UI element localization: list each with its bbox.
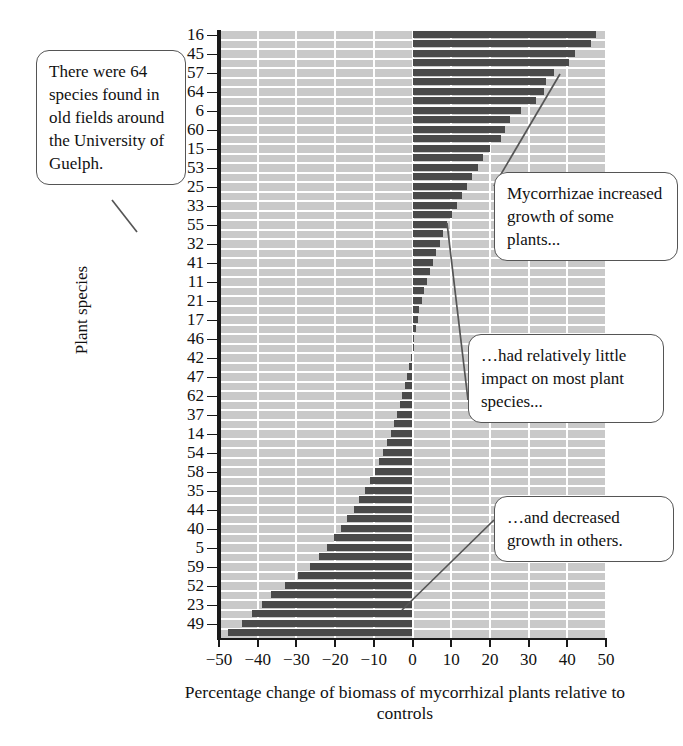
y-axis-tick-label: 23	[187, 596, 204, 613]
y-axis-tick-label: 32	[187, 235, 204, 252]
bar	[262, 601, 413, 608]
bar	[298, 572, 412, 579]
y-axis-tick	[207, 244, 217, 245]
callout-little-impact: …had relatively little impact on most pl…	[468, 334, 664, 423]
y-axis-tick	[207, 263, 217, 264]
bar	[327, 544, 413, 551]
y-axis-tick	[207, 54, 217, 55]
y-axis-tick	[207, 73, 217, 74]
bar	[359, 496, 412, 503]
x-axis-tick	[489, 638, 491, 647]
bar	[413, 344, 414, 351]
y-axis-tick-label: 15	[187, 140, 204, 157]
y-axis-tick	[207, 187, 217, 188]
x-axis-tick	[257, 638, 259, 647]
x-axis-tick	[334, 638, 336, 647]
bar	[413, 50, 576, 57]
bar	[413, 268, 430, 275]
bar	[413, 287, 425, 294]
bar	[375, 468, 413, 475]
y-axis-title: Plant species	[72, 220, 92, 400]
callout-decreased-growth: …and decreased growth in others.	[494, 496, 674, 562]
y-axis-tick-label: 45	[187, 45, 204, 62]
bar	[391, 430, 413, 437]
y-axis-tick-label: 21	[187, 292, 204, 309]
bar	[354, 506, 413, 513]
y-axis-tick-label: 35	[187, 482, 204, 499]
bar	[370, 477, 413, 484]
bar	[413, 145, 490, 152]
bar	[413, 297, 422, 304]
bar	[394, 420, 413, 427]
bar	[271, 591, 412, 598]
y-axis-tick	[207, 225, 217, 226]
y-axis-tick-label: 49	[187, 615, 204, 632]
bar	[242, 620, 412, 627]
bar	[347, 515, 412, 522]
bar	[413, 278, 428, 285]
bar	[413, 107, 521, 114]
zero-baseline	[219, 30, 221, 638]
y-axis-tick	[207, 624, 217, 625]
x-axis-tick	[412, 638, 414, 647]
y-axis-tick	[207, 491, 217, 492]
y-axis-tick-label: 60	[187, 121, 204, 138]
y-axis-tick-label: 37	[187, 406, 204, 423]
y-axis-tick-label: 53	[187, 159, 204, 176]
bar	[413, 202, 458, 209]
bar	[319, 553, 413, 560]
bar	[310, 563, 413, 570]
y-axis-tick-label: 44	[187, 501, 204, 518]
x-axis-tick	[295, 638, 297, 647]
y-axis-tick-label: 33	[187, 197, 204, 214]
bar	[387, 439, 412, 446]
y-axis-tick	[207, 206, 217, 207]
bar	[413, 116, 511, 123]
y-axis-tick	[207, 168, 217, 169]
bar	[413, 192, 463, 199]
y-axis-tick	[207, 453, 217, 454]
y-axis-tick	[207, 320, 217, 321]
y-axis-tick-label: 54	[187, 444, 204, 461]
bar	[252, 610, 413, 617]
y-axis-tick-label: 17	[187, 311, 204, 328]
y-axis-tick-label: 64	[187, 83, 204, 100]
y-axis-tick	[207, 548, 217, 549]
bar	[413, 211, 452, 218]
bar	[413, 69, 555, 76]
bar	[407, 373, 412, 380]
y-axis-tick-label: 52	[187, 577, 204, 594]
y-axis-tick-label: 6	[196, 102, 205, 119]
y-axis-tick	[207, 149, 217, 150]
y-axis-tick	[207, 339, 217, 340]
bar	[413, 325, 416, 332]
bar	[379, 458, 412, 465]
y-axis-tick	[207, 130, 217, 131]
bar	[402, 392, 412, 399]
y-axis-tick	[207, 529, 217, 530]
y-axis-tick-label: 14	[187, 425, 204, 442]
bar	[413, 230, 444, 237]
x-axis-tick-label: 50	[583, 650, 629, 669]
y-axis-tick-label: 55	[187, 216, 204, 233]
x-axis-tick	[218, 638, 220, 647]
bar	[285, 582, 413, 589]
bar	[413, 335, 415, 342]
bar	[413, 135, 501, 142]
bar	[411, 354, 412, 361]
bar	[228, 629, 413, 636]
x-axis-tick	[373, 638, 375, 647]
y-axis-tick	[207, 567, 217, 568]
y-axis-tick	[207, 434, 217, 435]
y-axis-tick	[207, 510, 217, 511]
chart-figure: 1645576466015532533553241112117464247623…	[0, 0, 683, 746]
y-axis-tick-label: 57	[187, 64, 204, 81]
y-axis-tick-label: 5	[196, 539, 205, 556]
bar	[413, 259, 434, 266]
y-axis-tick-label: 46	[187, 330, 204, 347]
x-axis-tick	[528, 638, 530, 647]
bar	[413, 126, 506, 133]
y-axis-tick	[207, 358, 217, 359]
bar	[413, 40, 592, 47]
y-axis-tick	[207, 282, 217, 283]
